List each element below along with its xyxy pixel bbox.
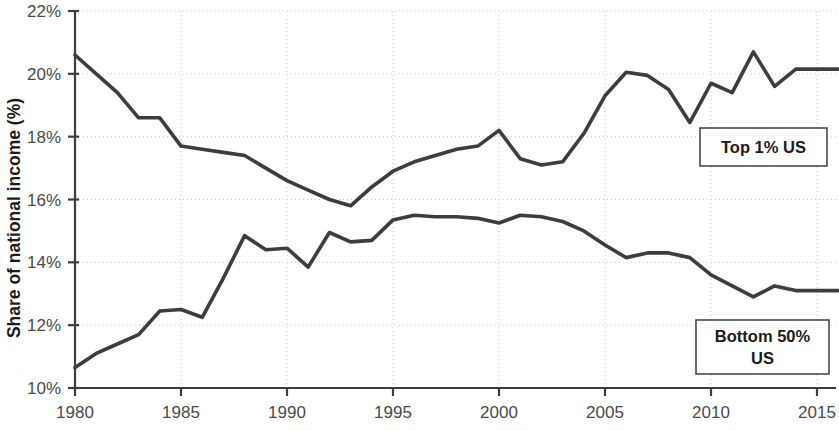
x-axis-tick-label: 1980 — [56, 403, 94, 422]
series-label-bottom-50pct-line2: US — [751, 349, 774, 367]
x-axis-tick-label: 2005 — [586, 403, 624, 422]
series-label-bottom-50pct: Bottom 50% US — [696, 320, 829, 374]
y-axis-tick-label: 16% — [27, 191, 61, 210]
series-label-top-1pct-text: Top 1% US — [721, 138, 806, 156]
y-axis-tick-label: 22% — [27, 2, 61, 21]
y-axis-tick-labels: 22%20%18%16%14%12%10% — [27, 2, 61, 398]
x-axis-tick-labels: 19801985199019952000200520102015 — [56, 403, 836, 422]
y-axis-title: Share of national income (%) — [4, 98, 24, 338]
y-axis-tick-label: 18% — [27, 128, 61, 147]
y-axis-tick-label: 10% — [27, 379, 61, 398]
x-axis-tick-label: 1995 — [374, 403, 412, 422]
y-axis-tick-label: 20% — [27, 65, 61, 84]
x-axis-tick-label: 2015 — [798, 403, 836, 422]
series-label-top-1pct: Top 1% US — [700, 128, 827, 166]
x-axis-tick-label: 1990 — [268, 403, 306, 422]
y-axis-tick-label: 12% — [27, 316, 61, 335]
chart-canvas: 22%20%18%16%14%12%10% 198019851990199520… — [0, 0, 839, 431]
y-axis-tick-label: 14% — [27, 253, 61, 272]
income-share-line-chart: 22%20%18%16%14%12%10% 198019851990199520… — [0, 0, 839, 431]
x-axis-tick-label: 2010 — [692, 403, 730, 422]
x-axis-tick-label: 1985 — [162, 403, 200, 422]
series-label-bottom-50pct-line1: Bottom 50% — [715, 327, 811, 345]
x-axis-tick-label: 2000 — [480, 403, 518, 422]
